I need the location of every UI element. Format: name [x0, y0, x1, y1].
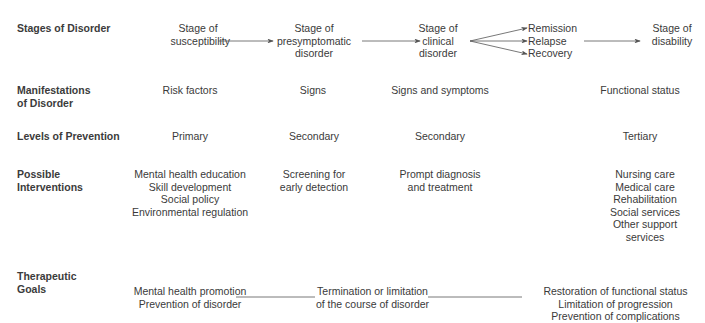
text-line: Other support [595, 218, 695, 231]
text-line: of the course of disorder [310, 298, 435, 311]
goal-secondary: Termination or limitation of the course … [310, 285, 435, 310]
text-line: Prevention of disorder [115, 298, 265, 311]
manifestation-signs-symptoms: Signs and symptoms [380, 84, 500, 97]
arrow-icon [470, 28, 527, 41]
prevention-primary: Primary [150, 130, 230, 143]
goal-tertiary: Restoration of functional status Limitat… [528, 285, 703, 323]
text-line: Mental health education [115, 168, 265, 181]
arrow-icon [470, 41, 527, 54]
text-line: Mental health promotion [115, 285, 265, 298]
text-line: Medical care [595, 181, 695, 194]
text-line: Restoration of functional status [528, 285, 703, 298]
interventions-secondary-1: Screening for early detection [268, 168, 360, 193]
text-line: services [595, 231, 695, 244]
text-line: Skill development [115, 181, 265, 194]
text-line: Termination or limitation [310, 285, 435, 298]
text-line: Rehabilitation [595, 193, 695, 206]
manifestation-functional: Functional status [590, 84, 690, 97]
manifestation-signs: Signs [278, 84, 348, 97]
interventions-tertiary: Nursing care Medical care Rehabilitation… [595, 168, 695, 243]
goal-primary: Mental health promotion Prevention of di… [115, 285, 265, 310]
text-line: and treatment [390, 181, 490, 194]
prevention-tertiary: Tertiary [600, 130, 680, 143]
text-line: Limitation of progression [528, 298, 703, 311]
text-line: Prompt diagnosis [390, 168, 490, 181]
prevention-secondary-2: Secondary [400, 130, 480, 143]
text-line: Screening for [268, 168, 360, 181]
prevention-secondary-1: Secondary [272, 130, 356, 143]
text-line: Social services [595, 206, 695, 219]
text-line: early detection [268, 181, 360, 194]
text-line: Social policy [115, 193, 265, 206]
manifestation-risk: Risk factors [140, 84, 240, 97]
text-line: Nursing care [595, 168, 695, 181]
text-line: Prevention of complications [528, 310, 703, 323]
text-line: Environmental regulation [115, 206, 265, 219]
interventions-primary: Mental health education Skill developmen… [115, 168, 265, 218]
interventions-secondary-2: Prompt diagnosis and treatment [390, 168, 490, 193]
